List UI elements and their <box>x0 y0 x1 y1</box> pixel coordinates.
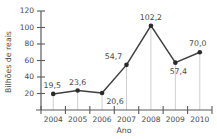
data-point-marker <box>100 91 105 96</box>
y-tick-label: 120 <box>20 6 35 15</box>
data-point-label: 23,6 <box>69 78 86 87</box>
y-axis <box>37 11 45 110</box>
x-axis-title: Ano <box>116 126 131 135</box>
y-tick-label: 60 <box>24 56 34 65</box>
x-tick-labels: 2004200520062007200820092010 <box>44 115 210 124</box>
data-point-label: 54,7 <box>105 52 122 61</box>
y-tick-label: 100 <box>20 23 35 32</box>
y-tick-label: 80 <box>24 39 34 48</box>
data-point-marker <box>75 88 80 93</box>
x-axis <box>36 106 212 114</box>
line-chart: 20406080100120 2004200520062007200820092… <box>0 0 217 139</box>
data-point-label: 20,6 <box>106 97 123 106</box>
x-tick-label: 2008 <box>141 115 160 124</box>
data-point-label: 102,2 <box>140 13 162 22</box>
x-tick-label: 2010 <box>190 115 209 124</box>
data-point-marker <box>197 50 202 55</box>
x-tick-label: 2004 <box>44 115 63 124</box>
x-tick-label: 2009 <box>166 115 185 124</box>
x-tick-label: 2005 <box>68 115 87 124</box>
data-point-marker <box>173 60 178 65</box>
x-tick-label: 2006 <box>93 115 112 124</box>
data-point-marker <box>149 23 154 28</box>
y-tick-label: 20 <box>24 89 34 98</box>
y-tick-label: 40 <box>24 72 34 81</box>
y-tick-labels: 20406080100120 <box>20 6 35 98</box>
data-point-label: 70,0 <box>189 39 206 48</box>
y-axis-title: Bilhões de reais <box>4 31 13 93</box>
data-point-marker <box>124 63 129 68</box>
chart-canvas: 20406080100120 2004200520062007200820092… <box>0 0 217 139</box>
x-tick-label: 2007 <box>117 115 136 124</box>
data-point-label: 19,5 <box>44 81 61 90</box>
data-point-label: 57,4 <box>170 67 187 76</box>
data-point-marker <box>51 92 56 97</box>
